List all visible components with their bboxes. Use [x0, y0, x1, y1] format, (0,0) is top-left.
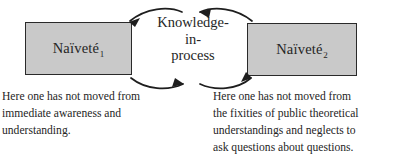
center-label-line-1: Knowledge-: [141, 14, 245, 31]
caption-right: Here one has not moved from the fixities…: [213, 88, 398, 156]
center-label-line-3: process: [141, 47, 245, 64]
caption-left-line-2: immediate awareness and: [2, 105, 202, 122]
node-box-naivete-1: Naïveté1: [25, 22, 132, 75]
center-label-knowledge-in-process: Knowledge- in- process: [141, 14, 245, 64]
node-label-naivete-2-base: Naïveté: [276, 41, 323, 57]
diagram-figure: Naïveté1 Naïveté2 Knowledge- in- process: [0, 0, 398, 164]
caption-right-line-4: ask questions about questions.: [213, 139, 398, 156]
center-label-line-2: in-: [141, 31, 245, 48]
node-label-naivete-1-base: Naïveté: [53, 40, 100, 56]
node-label-naivete-1: Naïveté1: [53, 40, 105, 57]
node-label-naivete-2-subscript: 2: [323, 50, 328, 60]
caption-right-line-1: Here one has not moved from: [213, 88, 398, 105]
node-label-naivete-2: Naïveté2: [276, 41, 328, 58]
caption-right-line-2: the fixities of public theoretical: [213, 105, 398, 122]
caption-right-line-3: understandings and neglects to: [213, 122, 398, 139]
arrow-left-to-center-bottom: [131, 78, 183, 88]
node-box-naivete-2: Naïveté2: [247, 23, 357, 76]
caption-left: Here one has not moved from immediate aw…: [2, 88, 202, 139]
arrowhead-center-bottom: [172, 78, 184, 87]
arrow-center-to-right-bottom: [200, 78, 251, 88]
caption-left-line-3: understanding.: [2, 122, 202, 139]
caption-left-line-1: Here one has not moved from: [2, 88, 202, 105]
node-label-naivete-1-subscript: 1: [99, 49, 104, 59]
